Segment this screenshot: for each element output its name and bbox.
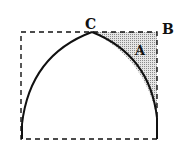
left-arch-curve	[22, 32, 92, 139]
label-b: B	[162, 21, 174, 37]
label-c: C	[85, 16, 96, 32]
arch-diagram: C B A	[0, 0, 183, 163]
label-a: A	[134, 43, 146, 58]
shaded-region-a	[92, 32, 157, 118]
